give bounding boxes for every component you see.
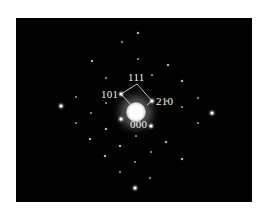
diffraction-spot xyxy=(181,106,183,108)
diffraction-spot xyxy=(91,60,93,62)
diffraction-spot xyxy=(104,155,106,157)
diffraction-spot xyxy=(166,100,168,102)
diffraction-spot xyxy=(75,122,77,124)
diffraction-spot xyxy=(211,112,214,115)
diffraction-spot xyxy=(149,177,151,179)
label-210: 210 xyxy=(156,96,173,107)
diffraction-spot xyxy=(150,125,153,128)
diffraction-spot xyxy=(105,102,107,104)
diffraction-spot xyxy=(167,64,169,66)
diffraction-spot xyxy=(75,96,77,98)
diffraction-spot xyxy=(197,122,199,124)
diffraction-spot xyxy=(105,77,107,79)
label-101: 101 xyxy=(101,89,118,100)
diffraction-spot xyxy=(120,93,123,96)
diffraction-spot xyxy=(134,187,137,190)
diffraction-spot xyxy=(119,145,121,147)
diffraction-spot xyxy=(165,141,167,143)
diffraction-pattern-image: 111 101 210 000 xyxy=(16,18,252,202)
diffraction-spot xyxy=(150,151,152,153)
diffraction-spot xyxy=(90,112,92,114)
label-111: 111 xyxy=(128,72,145,83)
diffraction-spot xyxy=(181,80,183,82)
diffraction-spot xyxy=(120,118,123,121)
diffraction-spot xyxy=(181,158,183,160)
label-000: 000 xyxy=(130,119,147,130)
diffraction-spot xyxy=(134,161,136,163)
diffraction-spot xyxy=(119,171,121,173)
diffraction-spot xyxy=(60,105,63,108)
diffraction-spot xyxy=(137,58,139,60)
diffraction-spot xyxy=(137,32,139,34)
diffraction-spot xyxy=(151,100,154,103)
diffraction-spot xyxy=(89,138,91,140)
diffraction-spot xyxy=(151,74,153,76)
diffraction-spot xyxy=(135,135,137,137)
diffraction-spot xyxy=(121,41,123,43)
diffraction-spot xyxy=(105,128,107,130)
diffraction-spot xyxy=(197,97,199,99)
